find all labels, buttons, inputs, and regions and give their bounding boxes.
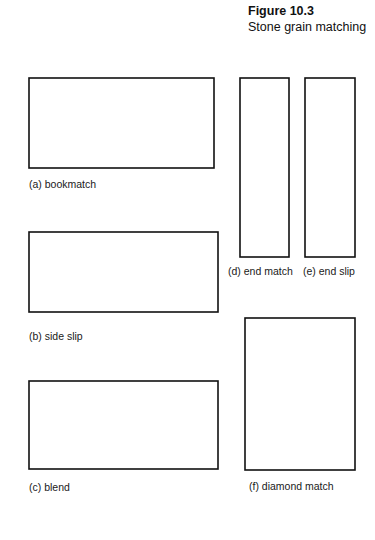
grain-panel-f bbox=[243, 316, 357, 472]
grain-panel-e bbox=[303, 76, 357, 259]
grain-panel-d bbox=[238, 76, 291, 259]
panel-caption-a: (a) bookmatch bbox=[29, 178, 96, 191]
figure-root: Figure 10.3 Stone grain matching (a) boo… bbox=[0, 0, 375, 540]
grain-panel-a bbox=[27, 76, 216, 170]
panel-caption-d: (d) end match bbox=[228, 265, 293, 278]
figure-title: Figure 10.3 Stone grain matching bbox=[248, 4, 372, 35]
grain-panel-b bbox=[27, 230, 220, 314]
panel-caption-e: (e) end slip bbox=[303, 265, 355, 278]
panel-caption-c: (c) blend bbox=[29, 481, 70, 494]
figure-subtitle: Stone grain matching bbox=[248, 20, 372, 36]
grain-panel-c bbox=[27, 379, 220, 471]
panel-caption-f: (f) diamond match bbox=[249, 480, 334, 493]
panel-caption-b: (b) side slip bbox=[29, 330, 83, 343]
figure-number: Figure 10.3 bbox=[248, 4, 372, 20]
